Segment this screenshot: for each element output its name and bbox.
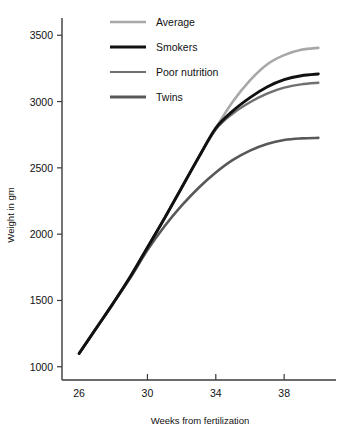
series-line-average xyxy=(79,48,318,354)
y-tick-label: 1000 xyxy=(30,361,54,373)
y-tick-label: 2000 xyxy=(30,228,54,240)
x-axis: 26303438 xyxy=(62,374,336,399)
legend-label: Twins xyxy=(156,91,183,103)
x-tick-label: 34 xyxy=(210,387,222,399)
y-tick-label: 3000 xyxy=(30,96,54,108)
chart-legend: AverageSmokersPoor nutritionTwins xyxy=(110,16,219,103)
y-tick-label: 2500 xyxy=(30,162,54,174)
y-tick-label: 1500 xyxy=(30,294,54,306)
chart-canvas: 100015002000250030003500 26303438 Averag… xyxy=(0,0,340,434)
growth-chart: 100015002000250030003500 26303438 Averag… xyxy=(0,0,340,434)
x-tick-label: 38 xyxy=(278,387,290,399)
y-axis: 100015002000250030003500 xyxy=(30,18,62,380)
x-axis-title: Weeks from fertilization xyxy=(151,415,250,426)
series-line-twins xyxy=(79,138,318,354)
series-line-poor-nutrition xyxy=(79,83,318,354)
y-tick-label: 3500 xyxy=(30,29,54,41)
legend-label: Poor nutrition xyxy=(156,66,219,78)
legend-label: Smokers xyxy=(156,41,197,53)
y-axis-title: Weight in gm xyxy=(5,187,16,242)
data-series-group xyxy=(79,48,318,354)
x-tick-label: 26 xyxy=(73,387,85,399)
series-line-smokers xyxy=(79,74,318,354)
x-tick-label: 30 xyxy=(142,387,154,399)
legend-label: Average xyxy=(156,16,195,28)
